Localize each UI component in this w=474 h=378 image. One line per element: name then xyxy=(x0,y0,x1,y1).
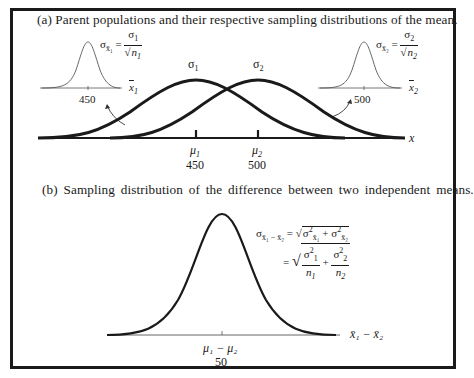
difference-std-error-formula-line-1: σx̄₁ − x̄₂ = √σ2x̄₁ + σ2x̄₂ xyxy=(256,226,349,242)
inset-2-center-value: 500 xyxy=(354,94,371,105)
sigma-1-label: σ1 xyxy=(188,58,198,73)
difference-center-value: 50 xyxy=(215,356,227,368)
panel-a-caption: (a) Parent populations and their respect… xyxy=(37,12,458,28)
panel-b-caption: (b) Sampling distribution of the differe… xyxy=(42,182,474,198)
inset-2-formula: σx̄₂ = σ2 √n2 xyxy=(376,28,418,63)
mu-1-symbol: μ1 xyxy=(190,144,200,159)
x-axis-label: x xyxy=(409,132,414,144)
difference-std-error-formula-line-2: = √ σ21 n1 + σ22 n2 xyxy=(283,243,350,283)
parent-1-curve xyxy=(38,80,345,138)
inset-1-formula: σx̄₁ = σ1 √n1 xyxy=(100,28,142,63)
mu-2-symbol: μ2 xyxy=(252,144,262,159)
difference-axis-label: x̄₁ − x̄₂ xyxy=(350,328,383,340)
inset-1-axis-label: x1 xyxy=(129,82,138,96)
arrow-to-inset-2 xyxy=(332,101,350,117)
mu-1-value: 450 xyxy=(186,159,204,171)
inset-2-axis-label: x2 xyxy=(409,82,418,96)
sigma-2-label: σ2 xyxy=(253,58,263,73)
mu-2-value: 500 xyxy=(248,159,266,171)
difference-center-symbol: μ₁ − μ₂ xyxy=(203,342,238,354)
parent-populations xyxy=(38,80,405,138)
inset-1-center-value: 450 xyxy=(79,94,96,105)
